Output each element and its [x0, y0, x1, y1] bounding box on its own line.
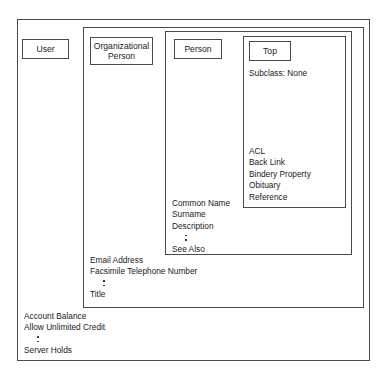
top-attribute-reference: Reference: [249, 192, 311, 203]
class-label-top: Top: [249, 41, 291, 61]
class-label-organizational-person-line2: Person: [108, 51, 135, 62]
class-label-user-text: User: [36, 44, 54, 55]
organizational-person-attribute-email-address: Email Address: [90, 255, 197, 266]
user-attribute-server-holds: Server Holds: [24, 345, 105, 356]
class-label-organizational-person: Organizational Person: [90, 37, 153, 65]
user-attribute-ellipsis-icon: [37, 334, 45, 345]
top-attribute-back-link: Back Link: [249, 157, 311, 168]
class-label-user: User: [22, 39, 69, 59]
person-attribute-description: Description: [172, 221, 230, 232]
class-hierarchy-diagram: User Organizational Person Person Top Su…: [0, 0, 387, 379]
top-attribute-obituary: Obituary: [249, 180, 311, 191]
person-attribute-list: Common Name Surname Description See Also: [172, 198, 230, 255]
user-attribute-list: Account Balance Allow Unlimited Credit S…: [24, 311, 105, 357]
top-attribute-bindery-property: Bindery Property: [249, 169, 311, 180]
class-label-top-text: Top: [263, 46, 277, 57]
top-subclass-text: Subclass: None: [249, 68, 307, 79]
class-label-organizational-person-line1: Organizational: [94, 41, 149, 52]
organizational-person-attribute-fax-number: Facsimile Telephone Number: [90, 266, 197, 277]
organizational-person-attribute-ellipsis-icon: [103, 278, 111, 289]
person-attribute-see-also: See Also: [172, 244, 230, 255]
class-label-person: Person: [174, 39, 222, 59]
person-attribute-surname: Surname: [172, 209, 230, 220]
person-attribute-common-name: Common Name: [172, 198, 230, 209]
user-attribute-account-balance: Account Balance: [24, 311, 105, 322]
top-attribute-acl: ACL: [249, 146, 311, 157]
class-label-person-text: Person: [184, 44, 211, 55]
organizational-person-attribute-list: Email Address Facsimile Telephone Number…: [90, 255, 197, 301]
organizational-person-attribute-title: Title: [90, 289, 197, 300]
user-attribute-allow-unlimited-credit: Allow Unlimited Credit: [24, 322, 105, 333]
person-attribute-ellipsis-icon: [185, 232, 193, 243]
top-attribute-list: ACL Back Link Bindery Property Obituary …: [249, 146, 311, 203]
top-subclass-note: Subclass: None: [249, 68, 307, 79]
